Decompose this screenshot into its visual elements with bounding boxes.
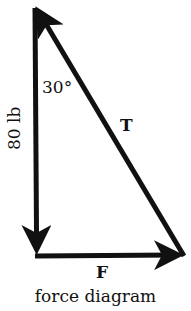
weight-vector-arrow — [35, 8, 37, 246]
weight-label: 80 lb — [4, 110, 24, 150]
force-label: F — [96, 262, 108, 282]
force-diagram: 30° 80 lb T F force diagram — [0, 0, 191, 311]
horizontal-force-vector-arrow — [35, 255, 175, 256]
tension-vector-arrow — [40, 14, 184, 256]
tension-label: T — [120, 115, 133, 135]
diagram-caption: force diagram — [0, 286, 191, 306]
angle-label: 30° — [42, 77, 72, 97]
